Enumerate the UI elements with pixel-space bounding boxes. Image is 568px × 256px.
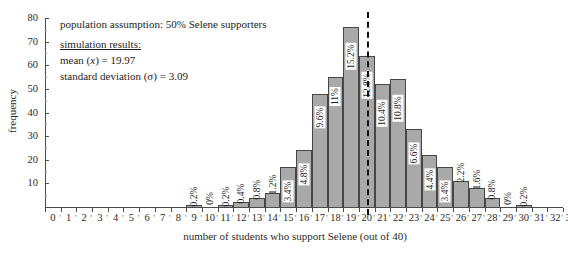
bar-value-label: 1.6% (471, 169, 482, 191)
y-tick-minor-mark (45, 172, 47, 173)
y-tick-label: 50 (14, 84, 38, 94)
mean-reference-line (367, 12, 369, 215)
y-tick-minor-mark (45, 148, 47, 149)
histogram-bar: 0% (202, 207, 218, 208)
annotation-standard-deviation: standard deviation (σ) = 3.09 (60, 71, 267, 82)
y-tick-label: 70 (14, 37, 38, 47)
y-axis-ticks: 1020304050607080 (0, 0, 45, 256)
histogram-bar: 0.8% (485, 198, 501, 207)
y-tick-label: 20 (14, 155, 38, 165)
bar-value-label: 0.4% (236, 183, 247, 205)
y-tick-label: 40 (14, 108, 38, 118)
histogram-bar: 9.6% (312, 94, 328, 207)
bar-value-label: 3.4% (283, 180, 294, 202)
bar-value-label: 0.2% (220, 185, 231, 207)
bar-value-label: 15.2% (346, 44, 357, 71)
histogram-bar: 1.6% (469, 188, 485, 207)
y-tick-minor-mark (45, 53, 47, 54)
y-tick-minor-mark (45, 30, 47, 31)
bar-value-label: 10.4% (377, 100, 388, 127)
annotation-mean: mean (x) = 19.97 (60, 55, 267, 66)
bar-value-label: 4.8% (298, 164, 309, 186)
bar-value-label: 3.4% (440, 180, 451, 202)
y-tick-mark (45, 18, 49, 19)
y-tick-minor-mark (45, 195, 47, 196)
annotation-block: population assumption: 50% Selene suppor… (60, 19, 267, 91)
bar-value-label: 2.2% (455, 162, 466, 184)
histogram-bar: 0.4% (233, 202, 249, 207)
y-tick-mark (45, 65, 49, 66)
y-tick-mark (45, 136, 49, 137)
annotation-results-heading: simulation results: (60, 39, 267, 50)
y-tick-mark (45, 42, 49, 43)
annotation-mean-prefix: mean ( (60, 54, 90, 66)
histogram-bar: 1.2% (265, 193, 281, 207)
y-tick-label: 60 (14, 60, 38, 70)
histogram-bar: 0.2% (218, 205, 234, 207)
histogram-bar: 2.2% (453, 181, 469, 207)
bar-value-label: 0.2% (518, 185, 529, 207)
histogram-bar: 10.8% (390, 79, 406, 207)
histogram-bar: 0% (500, 207, 516, 208)
annotation-results-heading-text: simulation results: (60, 38, 141, 50)
y-tick-minor-mark (45, 77, 47, 78)
x-tick-label: 33 (562, 212, 568, 224)
x-axis-title: number of students who support Selene (o… (45, 230, 545, 242)
annotation-mean-suffix: ) = 19.97 (95, 54, 135, 66)
bar-value-label: 10.8% (393, 96, 404, 123)
y-tick-mark (45, 89, 49, 90)
histogram-bar: 0.8% (249, 198, 265, 207)
y-tick-mark (45, 183, 49, 184)
histogram-bar: 6.6% (406, 129, 422, 207)
histogram-bar: 15.2% (343, 27, 359, 207)
bar-value-label: 0% (503, 191, 514, 206)
y-tick-label: 80 (14, 13, 38, 23)
histogram-bar: 10.4% (375, 84, 391, 207)
bar-value-label: 0.8% (251, 178, 262, 200)
histogram-bar: 0.2% (186, 205, 202, 207)
y-tick-minor-mark (45, 124, 47, 125)
bar-value-label: 9.6% (314, 107, 325, 129)
y-tick-label: 30 (14, 131, 38, 141)
histogram-bar: 11% (328, 77, 344, 207)
histogram-bar: 3.4% (280, 167, 296, 207)
histogram-bar: 4.4% (422, 155, 438, 207)
bar-value-label: 4.4% (424, 168, 435, 190)
y-tick-mark (45, 207, 49, 208)
y-tick-mark (45, 113, 49, 114)
y-tick-mark (45, 160, 49, 161)
bar-value-label: 1.2% (267, 173, 278, 195)
y-tick-minor-mark (45, 101, 47, 102)
histogram-bar: 0.2% (516, 205, 532, 207)
y-tick-label: 10 (14, 178, 38, 188)
bar-value-label: 6.6% (408, 142, 419, 164)
bar-value-label: 11% (330, 87, 341, 106)
annotation-population-assumption: population assumption: 50% Selene suppor… (60, 19, 267, 30)
bar-value-label: 0.2% (189, 185, 200, 207)
histogram-bar: 3.4% (437, 167, 453, 207)
bar-value-label: 0% (204, 191, 215, 206)
histogram-figure: frequency 1020304050607080 0'1'2'3'4'5'6… (0, 0, 568, 256)
bar-value-label: 0.8% (487, 178, 498, 200)
histogram-bar: 4.8% (296, 150, 312, 207)
